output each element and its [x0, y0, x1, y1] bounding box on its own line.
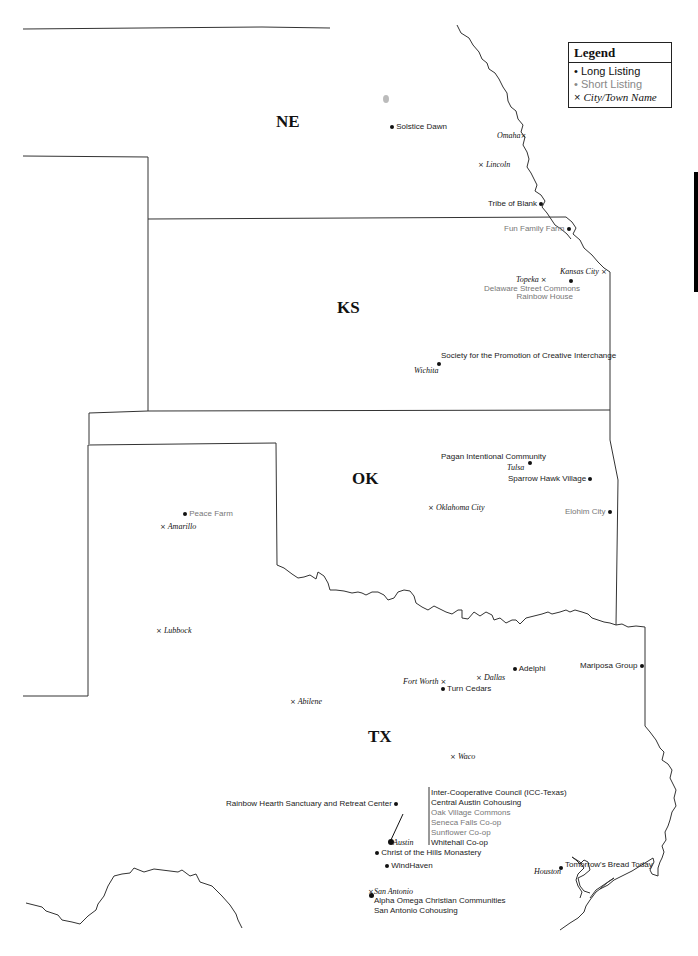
- state-label-tx: TX: [368, 727, 392, 747]
- label: Christ of the Hills Monastery: [381, 848, 481, 857]
- marker-society-promotion[interactable]: Society for the Promotion of Creative In…: [441, 351, 616, 361]
- cross-icon: ×: [476, 674, 482, 682]
- marker-whitehall-coop[interactable]: Whitehall Co-op: [431, 838, 567, 848]
- cross-icon: ×: [541, 276, 547, 284]
- ne-north-border: [23, 27, 330, 29]
- label: Tulsa: [507, 463, 524, 472]
- ks-east-border: [566, 217, 610, 410]
- label: Dallas: [484, 673, 505, 682]
- marker-central-austin-cohousing[interactable]: Central Austin Cohousing: [431, 798, 567, 808]
- marker-seneca-falls-coop[interactable]: Seneca Falls Co-op: [431, 818, 567, 828]
- label: Turn Cedars: [447, 684, 491, 693]
- city-lincoln: × Lincoln: [478, 160, 510, 170]
- long-listing-dot-icon: [608, 510, 612, 514]
- cross-icon: ×: [160, 523, 166, 531]
- marker-christ-of-the-hills[interactable]: Christ of the Hills Monastery: [375, 848, 481, 858]
- ne-ks-border: [148, 217, 566, 219]
- label: Mariposa Group: [580, 661, 637, 670]
- city-fort-worth: Fort Worth ×: [403, 677, 446, 687]
- legend-label-long: Long Listing: [581, 65, 640, 77]
- topeka-listing-dot-icon: [569, 279, 573, 283]
- cross-icon: ×: [521, 132, 527, 140]
- red-river-border: [277, 565, 645, 627]
- marker-alpha-omega[interactable]: Alpha Omega Christian Communities: [374, 896, 506, 906]
- city-abilene: × Abilene: [290, 697, 322, 707]
- legend-item-city: × City/Town Name: [574, 91, 666, 104]
- label: Adelphi: [519, 664, 546, 673]
- label: Topeka: [516, 275, 539, 284]
- ne-colorado-border: [23, 156, 148, 219]
- tx-east-border: [645, 627, 676, 876]
- label: San Antonio: [374, 887, 413, 896]
- label: Lincoln: [486, 160, 510, 169]
- long-listing-dot-icon: [390, 125, 394, 129]
- label: Amarillo: [168, 522, 196, 531]
- long-listing-dot-icon: [394, 802, 398, 806]
- label: Waco: [458, 752, 475, 761]
- city-waco: × Waco: [450, 752, 475, 762]
- long-listing-dot-icon: [539, 202, 543, 206]
- marker-oak-village-commons[interactable]: Oak Village Commons: [431, 808, 567, 818]
- city-oklahoma-city: × Oklahoma City: [428, 503, 485, 513]
- label: Kansas City: [560, 267, 599, 276]
- tulsa-listing-dot-icon: [528, 461, 532, 465]
- marker-adelphi[interactable]: Adelphi: [513, 664, 545, 674]
- city-kansas-city: Kansas City ×: [560, 267, 607, 277]
- label: Alpha Omega Christian Communities: [374, 896, 506, 905]
- cross-icon: ×: [601, 268, 607, 276]
- long-listing-dot-icon: [567, 227, 571, 231]
- legend-item-long: • Long Listing: [574, 65, 666, 78]
- city-houston: Houston: [534, 867, 561, 877]
- state-boundaries-map: [0, 0, 698, 956]
- city-amarillo: × Amarillo: [160, 522, 196, 532]
- cross-icon: ×: [156, 627, 162, 635]
- marker-tomorrows-bread[interactable]: Tomorrow's Bread Today: [565, 860, 653, 870]
- marker-rainbow-hearth[interactable]: Rainbow Hearth Sanctuary and Retreat Cen…: [226, 799, 398, 809]
- label: Pagan Intentional Community: [441, 452, 546, 461]
- marker-fun-family-farm[interactable]: Fun Family Farm: [504, 224, 571, 234]
- cross-icon: ×: [478, 161, 484, 169]
- legend-title: Legend: [569, 43, 671, 63]
- marker-mariposa-group[interactable]: Mariposa Group: [580, 661, 644, 671]
- marker-sunflower-coop[interactable]: Sunflower Co-op: [431, 828, 567, 838]
- marker-windhaven[interactable]: WindHaven: [385, 861, 433, 871]
- label: Fun Family Farm: [504, 224, 564, 233]
- label: Society for the Promotion of Creative In…: [441, 351, 616, 360]
- label: San Antonio Cohousing: [374, 906, 458, 915]
- label: Rainbow House: [517, 292, 573, 301]
- marker-solstice-dawn[interactable]: Solstice Dawn: [390, 122, 447, 132]
- city-omaha: Omaha×: [497, 131, 526, 141]
- label: Austin: [393, 838, 413, 847]
- legend-box: Legend • Long Listing • Short Listing × …: [568, 42, 672, 108]
- long-listing-dot-icon: [441, 687, 445, 691]
- label: Houston: [534, 867, 561, 876]
- tx-panhandle: [88, 443, 277, 565]
- label: Abilene: [298, 697, 322, 706]
- marker-tribe-of-blank[interactable]: Tribe of Blank: [488, 199, 543, 209]
- long-listing-dot-icon: [183, 512, 187, 516]
- label: Oklahoma City: [436, 503, 485, 512]
- marker-turn-cedars[interactable]: Turn Cedars: [441, 684, 491, 694]
- cross-icon: ×: [450, 753, 456, 761]
- marker-peace-farm[interactable]: Peace Farm: [183, 509, 233, 519]
- label: Lubbock: [164, 626, 192, 635]
- label: Tribe of Blank: [488, 199, 537, 208]
- page-edge-tab: [694, 172, 698, 292]
- marker-icc-texas[interactable]: Inter-Cooperative Council (ICC-Texas): [431, 788, 567, 798]
- ks-ok-border: [89, 410, 610, 413]
- marker-san-antonio-cohousing[interactable]: San Antonio Cohousing: [374, 906, 458, 916]
- label: Fort Worth: [403, 677, 439, 686]
- label: WindHaven: [391, 861, 432, 870]
- marker-sparrow-hawk[interactable]: Sparrow Hawk Village: [508, 474, 592, 484]
- label: Peace Farm: [189, 509, 233, 518]
- label: Elohim City: [565, 507, 605, 516]
- marker-elohim-city[interactable]: Elohim City: [565, 507, 612, 517]
- legend-item-short: • Short Listing: [574, 78, 666, 91]
- lake-blob: [383, 95, 389, 103]
- state-label-ok: OK: [352, 469, 378, 489]
- city-tulsa: Tulsa: [507, 463, 524, 473]
- dot-icon: •: [574, 78, 578, 90]
- long-listing-dot-icon: [640, 664, 644, 668]
- city-dallas: × Dallas: [476, 673, 505, 683]
- marker-rainbow-house[interactable]: Rainbow House: [484, 292, 573, 302]
